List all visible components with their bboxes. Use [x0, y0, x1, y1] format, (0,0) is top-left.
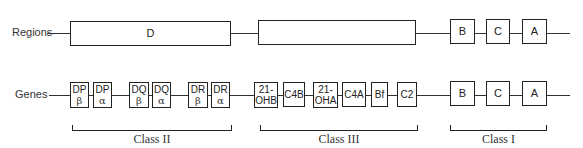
gene-c-box: C — [486, 81, 510, 106]
gene-a-box: A — [522, 81, 547, 106]
gene-21-ohb-top: 21- — [259, 84, 273, 95]
gene-dr-beta-box: DR β — [188, 82, 208, 108]
gene-dq-alpha-top: DQ — [154, 84, 169, 95]
gene-dq-alpha-box: DQ α — [152, 82, 171, 108]
gene-c4a-box: C4A — [342, 82, 366, 107]
gene-dr-beta-bottom: β — [195, 95, 201, 106]
class-ii-label: Class II — [72, 132, 232, 147]
gene-dq-beta-bottom: β — [136, 95, 142, 106]
gene-dr-beta-top: DR — [191, 84, 205, 95]
gene-dp-beta-box: DP β — [70, 82, 89, 108]
gene-c-label: C — [494, 88, 502, 99]
gene-21-oha-bottom: OHA — [315, 95, 337, 106]
region-b-box: B — [450, 19, 475, 44]
genes-row-label: Genes — [15, 88, 47, 100]
gene-dp-alpha-bottom: α — [99, 95, 106, 106]
gene-dr-alpha-bottom: α — [217, 95, 224, 106]
gene-bf-label: Bf — [375, 89, 384, 100]
gene-dp-alpha-box: DP α — [93, 82, 112, 108]
gene-c4b-label: C4B — [284, 89, 303, 100]
gene-bf-box: Bf — [371, 82, 388, 107]
gene-dr-alpha-top: DR — [213, 84, 227, 95]
gene-c4b-box: C4B — [283, 82, 305, 107]
region-d-box: D — [70, 21, 231, 46]
region-b-label: B — [459, 26, 466, 37]
gene-c2-box: C2 — [397, 82, 417, 107]
region-c-label: C — [494, 26, 502, 37]
class-iii-label: Class III — [260, 132, 418, 147]
gene-b-box: B — [450, 81, 475, 106]
regions-row-label: Regions — [12, 26, 52, 38]
gene-dp-alpha-top: DP — [96, 84, 110, 95]
gene-21-ohb-box: 21- OHB — [254, 82, 278, 108]
region-a-box: A — [522, 19, 547, 44]
class-i-label: Class I — [450, 132, 547, 147]
gene-dr-alpha-box: DR α — [211, 82, 230, 108]
class-iii-bracket — [260, 125, 418, 131]
gene-dp-beta-top: DP — [73, 84, 87, 95]
gene-a-label: A — [531, 88, 538, 99]
gene-c4a-label: C4A — [344, 89, 363, 100]
gene-21-oha-box: 21- OHA — [313, 82, 338, 108]
class-i-bracket — [450, 125, 547, 131]
gene-dq-beta-top: DQ — [132, 84, 147, 95]
gene-dp-beta-bottom: β — [77, 95, 83, 106]
gene-b-label: B — [459, 88, 466, 99]
region-a-label: A — [531, 26, 538, 37]
gene-21-ohb-bottom: OHB — [255, 95, 277, 106]
gene-dq-alpha-bottom: α — [158, 95, 165, 106]
region-class-iii-box — [258, 20, 416, 45]
gene-c2-label: C2 — [401, 89, 414, 100]
class-ii-bracket — [72, 125, 232, 131]
gene-dq-beta-box: DQ β — [129, 82, 149, 108]
region-c-box: C — [486, 19, 510, 44]
gene-21-oha-top: 21- — [318, 84, 332, 95]
region-d-label: D — [147, 28, 155, 39]
